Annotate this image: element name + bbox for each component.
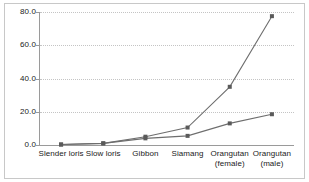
data-point-marker bbox=[270, 112, 274, 116]
series-line bbox=[61, 114, 272, 144]
chart-container: 0.020.040.060.080.0 Slender lorisSlow lo… bbox=[0, 0, 309, 182]
data-point-marker bbox=[228, 85, 232, 89]
x-tick-label: Orangutan (male) bbox=[245, 149, 299, 169]
data-point-marker bbox=[186, 134, 190, 138]
data-point-marker bbox=[186, 126, 190, 130]
data-point-marker bbox=[59, 143, 63, 147]
data-point-marker bbox=[143, 136, 147, 140]
series-line bbox=[61, 16, 272, 144]
data-point-marker bbox=[228, 121, 232, 125]
data-point-marker bbox=[270, 14, 274, 18]
data-point-marker bbox=[101, 141, 105, 145]
